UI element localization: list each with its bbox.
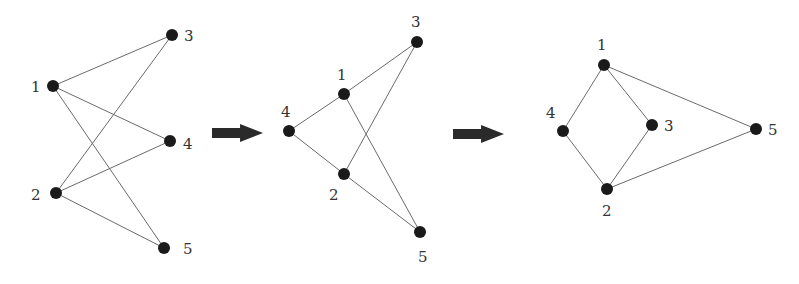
edge-1-3 (53, 35, 172, 86)
node-3 (646, 119, 658, 131)
node-label-1: 1 (31, 78, 41, 96)
node-label-1: 1 (337, 66, 347, 84)
node-5 (750, 123, 762, 135)
node-4 (164, 135, 176, 147)
edge-2-3 (607, 125, 652, 189)
node-4 (283, 125, 295, 137)
edge-2-4 (563, 131, 607, 189)
edge-1-3 (604, 65, 652, 125)
node-label-1: 1 (597, 36, 607, 54)
edge-1-5 (344, 94, 420, 232)
edge-1-4 (53, 86, 170, 141)
edge-2-5 (56, 193, 164, 248)
planar-layout: 12345 (546, 36, 778, 220)
arrow-right-icon (212, 124, 263, 142)
bipartite-layout: 12345 (31, 27, 194, 258)
node-2 (338, 168, 350, 180)
edge-1-4 (289, 94, 344, 131)
edge-2-5 (344, 174, 420, 232)
edge-1-5 (53, 86, 164, 248)
edge-2-4 (56, 141, 170, 193)
node-label-3: 3 (664, 117, 674, 135)
node-label-2: 2 (31, 186, 41, 204)
edge-2-4 (289, 131, 344, 174)
node-1 (338, 88, 350, 100)
edge-1-5 (604, 65, 756, 129)
node-label-3: 3 (411, 13, 421, 31)
node-label-3: 3 (184, 27, 194, 45)
node-2 (50, 187, 62, 199)
node-label-5: 5 (418, 248, 428, 266)
edge-2-5 (607, 129, 756, 189)
node-5 (158, 242, 170, 254)
node-5 (414, 226, 426, 238)
node-label-5: 5 (768, 121, 778, 139)
diagram-canvas: 123451234512345 (0, 0, 799, 284)
edge-1-4 (563, 65, 604, 131)
edge-2-3 (56, 35, 172, 193)
intermediate-layout: 12345 (281, 13, 428, 266)
node-4 (557, 125, 569, 137)
node-label-2: 2 (329, 186, 339, 204)
node-3 (411, 36, 423, 48)
node-label-5: 5 (183, 240, 193, 258)
node-label-4: 4 (281, 103, 291, 121)
edge-1-3 (344, 42, 417, 94)
node-2 (601, 183, 613, 195)
node-1 (598, 59, 610, 71)
node-label-2: 2 (602, 202, 612, 220)
node-label-4: 4 (183, 135, 193, 153)
node-3 (166, 29, 178, 41)
arrow-right-icon (453, 125, 504, 143)
edge-2-3 (344, 42, 417, 174)
node-1 (47, 80, 59, 92)
graph-transformation-diagram: 123451234512345 (0, 0, 799, 284)
node-label-4: 4 (546, 104, 556, 122)
